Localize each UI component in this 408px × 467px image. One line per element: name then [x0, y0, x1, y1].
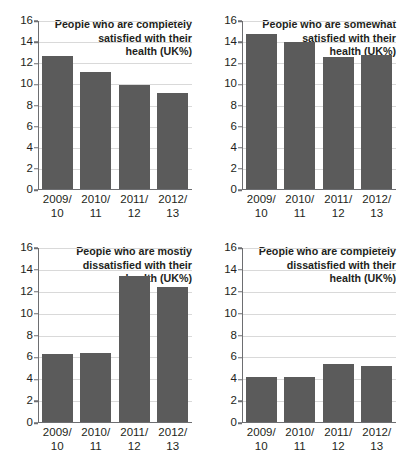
- x-tick-line-2: 12: [319, 439, 358, 453]
- gridline-0: [38, 190, 192, 191]
- y-tick-label-4: 4: [27, 142, 33, 154]
- y-tick-label-12: 12: [20, 58, 33, 70]
- x-tick-line-1: 2012/: [362, 426, 391, 438]
- y-tick-label-14: 14: [20, 36, 33, 48]
- y-tick-label-10: 10: [20, 79, 33, 91]
- x-tick-line-2: 10: [242, 439, 281, 453]
- cropped-figure-heading: [0, 0, 408, 7]
- plot-area: 0246810121416: [242, 21, 396, 190]
- x-tick-line-1: 2010/: [285, 193, 314, 205]
- y-tick-label-8: 8: [231, 330, 237, 342]
- y-tick-label-8: 8: [27, 330, 33, 342]
- x-tick-label-2: 2010/11: [77, 425, 116, 459]
- x-tick-line-2: 10: [38, 439, 77, 453]
- x-axis-ticks: 2009/102010/112011/122012/13: [242, 425, 396, 459]
- plot-area: 0246810121416: [242, 248, 396, 423]
- y-tick-label-4: 4: [231, 142, 237, 154]
- x-tick-label-4: 2012/13: [154, 425, 193, 459]
- x-tick-line-1: 2009/: [247, 193, 276, 205]
- x-tick-line-1: 2010/: [81, 426, 110, 438]
- x-tick-line-1: 2011/: [120, 426, 148, 438]
- x-tick-label-3: 2011/12: [319, 192, 358, 226]
- x-tick-line-1: 2012/: [362, 193, 391, 205]
- x-tick-label-3: 2011/12: [319, 425, 358, 459]
- y-tick-label-6: 6: [27, 352, 33, 364]
- x-axis-ticks: 2009/102010/112011/122012/13: [38, 192, 192, 226]
- x-tick-line-2: 12: [115, 439, 154, 453]
- y-tick-label-2: 2: [27, 163, 33, 175]
- gridline-0: [242, 190, 396, 191]
- y-tick-label-16: 16: [224, 15, 237, 27]
- plot-area: 0246810121416: [38, 21, 192, 190]
- gridline-0: [38, 423, 192, 424]
- x-tick-line-1: 2010/: [81, 193, 110, 205]
- x-tick-line-1: 2012/: [158, 426, 187, 438]
- y-tick-label-6: 6: [231, 352, 237, 364]
- x-tick-line-2: 12: [319, 206, 358, 220]
- y-tick-label-8: 8: [231, 100, 237, 112]
- y-tick-label-8: 8: [27, 100, 33, 112]
- y-tick-label-14: 14: [224, 36, 237, 48]
- y-tick-label-14: 14: [20, 264, 33, 276]
- y-tick-label-10: 10: [20, 308, 33, 320]
- y-tick-label-6: 6: [27, 121, 33, 133]
- y-tick-label-0: 0: [27, 417, 33, 429]
- x-tick-line-2: 12: [115, 206, 154, 220]
- y-tick-label-16: 16: [20, 15, 33, 27]
- x-tick-line-1: 2011/: [324, 193, 352, 205]
- x-tick-line-2: 10: [38, 206, 77, 220]
- x-tick-line-1: 2011/: [120, 193, 148, 205]
- y-tick-label-2: 2: [27, 395, 33, 407]
- x-tick-label-2: 2010/11: [281, 192, 320, 226]
- x-tick-line-2: 11: [77, 439, 116, 453]
- x-tick-line-2: 11: [281, 206, 320, 220]
- x-tick-label-3: 2011/12: [115, 425, 154, 459]
- x-tick-label-1: 2009/10: [242, 192, 281, 226]
- chart-panel-top-left: People who are completelysatisfied with …: [0, 7, 204, 234]
- chart-panel-bottom-left: People who are mostlydissatisfied with t…: [0, 234, 204, 467]
- y-tick-label-10: 10: [224, 308, 237, 320]
- y-tick-label-10: 10: [224, 79, 237, 91]
- x-tick-label-4: 2012/13: [358, 192, 397, 226]
- y-tick-label-0: 0: [231, 184, 237, 196]
- x-tick-label-4: 2012/13: [358, 425, 397, 459]
- axis-frame: [38, 248, 192, 423]
- x-tick-line-1: 2009/: [247, 426, 276, 438]
- x-tick-line-1: 2009/: [43, 193, 72, 205]
- x-tick-label-1: 2009/10: [38, 192, 77, 226]
- x-tick-label-3: 2011/12: [115, 192, 154, 226]
- x-tick-label-4: 2012/13: [154, 192, 193, 226]
- y-tick-label-14: 14: [224, 264, 237, 276]
- chart-panel-top-right: People who are somewhatsatisfied with th…: [204, 7, 408, 234]
- x-tick-line-2: 13: [358, 439, 397, 453]
- axis-frame: [242, 21, 396, 190]
- y-tick-label-12: 12: [224, 58, 237, 70]
- x-tick-label-1: 2009/10: [38, 425, 77, 459]
- figure: People who are completelysatisfied with …: [0, 0, 408, 467]
- x-tick-line-1: 2010/: [285, 426, 314, 438]
- x-tick-line-2: 13: [358, 206, 397, 220]
- y-tick-label-0: 0: [231, 417, 237, 429]
- y-tick-label-6: 6: [231, 121, 237, 133]
- axis-frame: [38, 21, 192, 190]
- panel-grid: People who are completelysatisfied with …: [0, 7, 408, 467]
- x-tick-label-1: 2009/10: [242, 425, 281, 459]
- y-tick-label-4: 4: [27, 374, 33, 386]
- y-tick-label-4: 4: [231, 374, 237, 386]
- y-tick-label-2: 2: [231, 163, 237, 175]
- x-tick-label-2: 2010/11: [77, 192, 116, 226]
- chart-panel-bottom-right: People who are completelydissatisfied wi…: [204, 234, 408, 467]
- x-axis-ticks: 2009/102010/112011/122012/13: [242, 192, 396, 226]
- y-tick-label-0: 0: [27, 184, 33, 196]
- y-tick-label-16: 16: [224, 242, 237, 254]
- x-tick-line-2: 13: [154, 439, 193, 453]
- plot-area: 0246810121416: [38, 248, 192, 423]
- y-tick-label-12: 12: [20, 286, 33, 298]
- x-tick-line-2: 11: [77, 206, 116, 220]
- y-tick-label-2: 2: [231, 395, 237, 407]
- x-tick-line-1: 2012/: [158, 193, 187, 205]
- x-tick-line-2: 11: [281, 439, 320, 453]
- x-tick-line-2: 13: [154, 206, 193, 220]
- axis-frame: [242, 248, 396, 423]
- x-tick-line-1: 2011/: [324, 426, 352, 438]
